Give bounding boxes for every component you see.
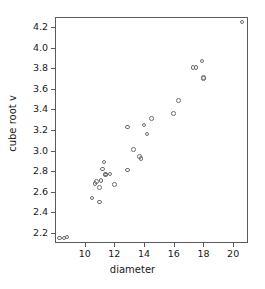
y-axis-tick-label: 2.4 xyxy=(12,206,48,218)
x-axis-tick xyxy=(114,243,115,247)
data-point xyxy=(112,182,117,187)
y-axis-tick xyxy=(51,233,55,234)
data-point xyxy=(171,111,176,116)
x-axis-tick xyxy=(203,243,204,247)
x-axis-tick-label: 16 xyxy=(159,248,189,259)
plot-area-frame xyxy=(55,17,248,243)
data-point xyxy=(100,167,105,172)
x-axis-tick-label: 10 xyxy=(70,248,100,259)
data-point xyxy=(149,116,154,121)
x-axis-tick xyxy=(85,243,86,247)
data-point xyxy=(97,185,102,190)
scatter-plot-figure: 1012141618202.22.42.62.83.03.23.43.63.84… xyxy=(0,0,265,289)
data-point xyxy=(201,75,206,80)
y-axis-tick xyxy=(51,27,55,28)
data-point xyxy=(99,178,104,183)
x-axis-tick xyxy=(233,243,234,247)
y-axis-tick xyxy=(51,171,55,172)
y-axis-tick xyxy=(51,48,55,49)
y-axis-tick xyxy=(51,212,55,213)
x-axis-tick xyxy=(174,243,175,247)
data-point xyxy=(194,65,199,70)
y-axis-tick xyxy=(51,192,55,193)
y-axis-tick xyxy=(51,68,55,69)
x-axis-tick-label: 12 xyxy=(99,248,129,259)
x-axis-tick-label: 18 xyxy=(188,248,218,259)
x-axis-tick-label: 14 xyxy=(129,248,159,259)
x-axis-label: diameter xyxy=(0,264,265,275)
y-axis-tick-label: 2.6 xyxy=(12,186,48,198)
y-axis-tick-label: 4.0 xyxy=(12,42,48,54)
y-axis-label: cube root v xyxy=(7,64,18,184)
data-point xyxy=(97,200,102,205)
data-point xyxy=(131,147,136,152)
y-axis-tick xyxy=(51,130,55,131)
data-point xyxy=(176,98,181,103)
x-axis-tick-label: 20 xyxy=(218,248,248,259)
y-axis-tick xyxy=(51,109,55,110)
y-axis-tick xyxy=(51,89,55,90)
y-axis-tick-label: 2.2 xyxy=(12,227,48,239)
x-axis-tick xyxy=(144,243,145,247)
y-axis-tick xyxy=(51,151,55,152)
y-axis-tick-label: 4.2 xyxy=(12,21,48,33)
